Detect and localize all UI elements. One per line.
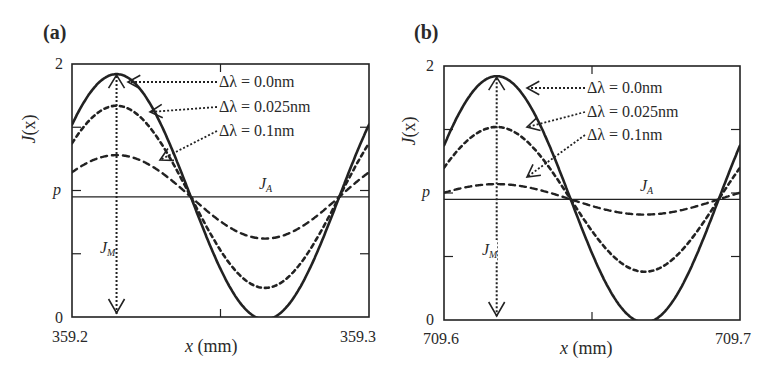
panel-b-ylabel: J(x) [400, 117, 418, 146]
panel-a-legend-2: Δλ = 0.1nm [219, 123, 295, 139]
panel-b-ytick-p: p [422, 184, 430, 200]
figure-canvas [0, 0, 780, 375]
panel-b-xtick-left: 709.6 [423, 331, 459, 347]
panel-a-xtick-left: 359.2 [52, 329, 88, 345]
panel-b-jm-label: JM [482, 240, 497, 262]
legend-leader-line [150, 107, 217, 112]
panel-b-legend-0: Δλ = 0.0nm [587, 80, 663, 96]
panel-a-legend-0: Δλ = 0.0nm [219, 74, 295, 90]
panel-b-xlabel: x (mm) [560, 339, 613, 357]
panel-a-ytick-2: 2 [55, 56, 63, 72]
panel-a-xtick-right: 359.3 [340, 329, 376, 345]
panel-a-ja-label: JA [259, 176, 272, 194]
panel-a-jm-label: JM [100, 238, 115, 260]
panel-b-ytick-2: 2 [426, 58, 434, 74]
panel-a-legend-1: Δλ = 0.025nm [219, 99, 311, 115]
panel-b-ytick-0: 0 [426, 312, 434, 328]
panel-b-legend-1: Δλ = 0.025nm [587, 104, 679, 120]
panel-b-legend-2: Δλ = 0.1nm [587, 127, 663, 143]
panel-a-xlabel: x (mm) [185, 337, 238, 355]
panel-a-ytick-p: p [53, 182, 61, 198]
panel-a-label: (a) [43, 22, 66, 42]
panel-a-ytick-0: 0 [55, 310, 63, 326]
panel-b-ja-label: JA [640, 178, 653, 196]
panel-a-ylabel: J(x) [20, 115, 38, 144]
panel-b-xtick-right: 709.7 [715, 331, 751, 347]
legend-leader-line [527, 135, 585, 177]
panel-b-label: (b) [414, 22, 438, 42]
